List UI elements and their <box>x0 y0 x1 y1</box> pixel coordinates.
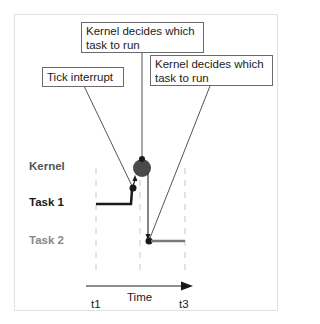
kernel-decides-callout-2: Kernel decides which task to run <box>150 55 273 86</box>
lane-label-task2: Task 2 <box>29 234 64 246</box>
lane-label-task1: Task 1 <box>29 196 64 208</box>
kernel-decides-2-line1: Kernel decides which <box>155 58 268 72</box>
time-axis-label: Time <box>127 291 152 303</box>
tick-label-t1: t1 <box>91 298 101 310</box>
kernel-node-top-dot <box>139 156 145 162</box>
lane-label-kernel: Kernel <box>29 160 65 172</box>
kernel-decides-2-line2: task to run <box>155 72 268 86</box>
kernel-decides-1-line1: Kernel decides which <box>86 25 199 39</box>
kernel-decides-2-leader <box>150 86 210 238</box>
kernel-decides-callout-1: Kernel decides which task to run <box>81 22 204 53</box>
tick-label-t3: t3 <box>179 298 189 310</box>
tick-arrow-head <box>133 175 138 181</box>
task1-run-segment <box>96 190 132 204</box>
tick-leader <box>84 86 132 186</box>
tick-interrupt-callout: Tick interrupt <box>42 67 124 87</box>
time-axis-arrow-icon <box>181 282 193 291</box>
tick-interrupt-text: Tick interrupt <box>47 71 113 83</box>
kernel-decides-1-line2: task to run <box>86 39 199 53</box>
